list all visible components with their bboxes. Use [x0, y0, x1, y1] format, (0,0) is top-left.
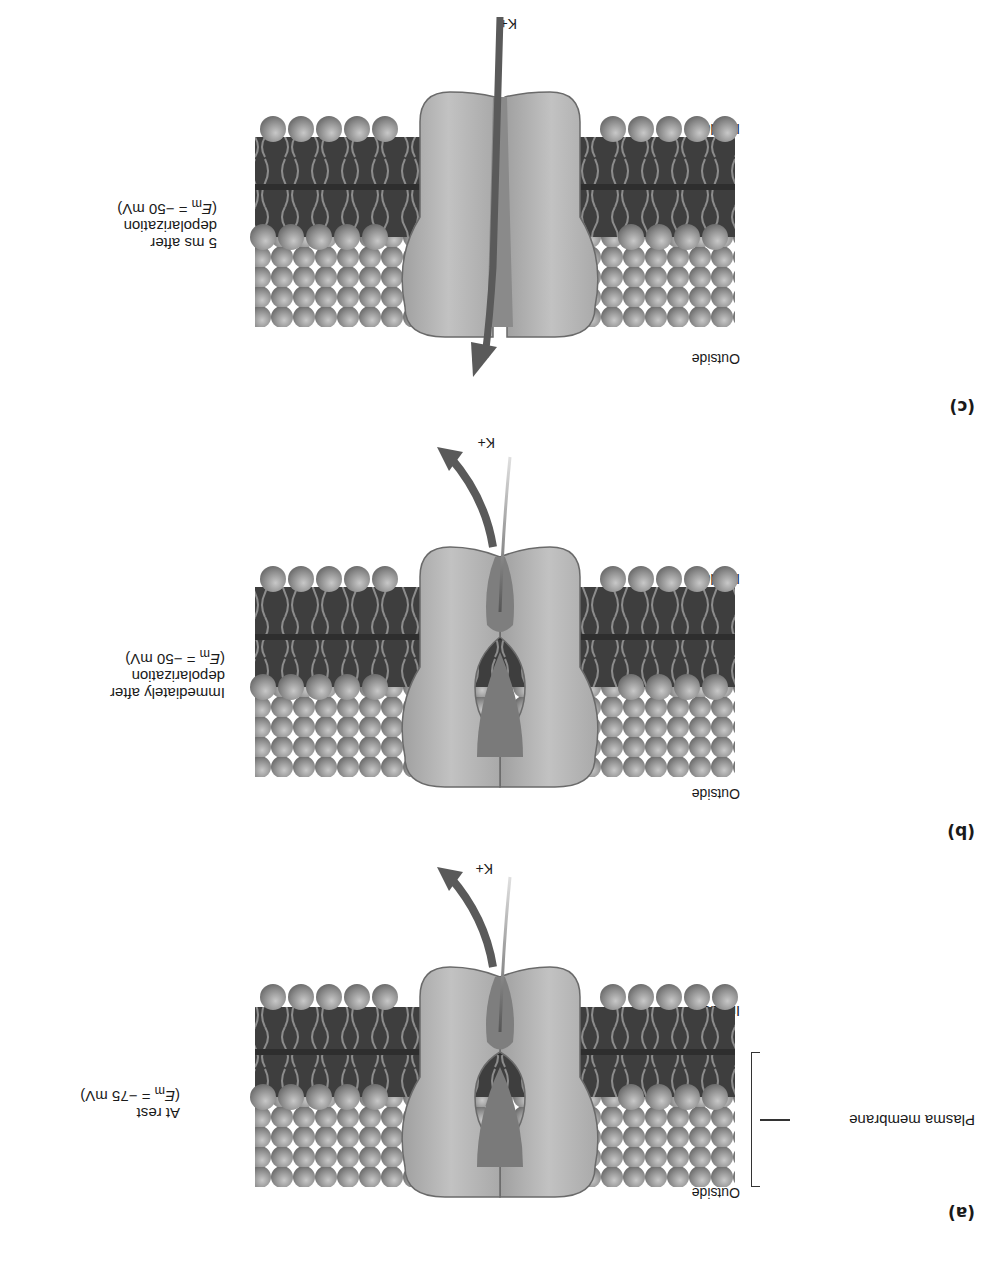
- caption-c: 5 ms after depolarization (Em = −50 mV): [117, 195, 217, 252]
- potassium-channel-gating-figure: (a) Plasma membrane Outside Inside K+ n …: [0, 0, 995, 1267]
- caption-b: Immediately after depolarization (Em = −…: [110, 645, 225, 702]
- membrane-illustration-c: [235, 7, 755, 387]
- panel-letter-c: (c): [949, 397, 975, 417]
- membrane-illustration-a: [235, 847, 755, 1207]
- plasma-membrane-bracket-tick: [760, 1120, 790, 1122]
- panel-letter-a: (a): [948, 1203, 975, 1223]
- caption-a: At rest (Em = −75 mV): [80, 1082, 180, 1122]
- plasma-membrane-label: Plasma membrane: [849, 1112, 975, 1129]
- membrane-illustration-b: [235, 437, 755, 797]
- panel-letter-b: (b): [947, 822, 975, 842]
